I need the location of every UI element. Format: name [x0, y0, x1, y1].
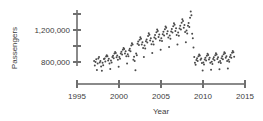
data-point: [118, 56, 120, 58]
data-point: [153, 44, 155, 46]
data-point: [227, 68, 229, 70]
data-point: [207, 54, 209, 56]
data-point: [99, 60, 101, 62]
data-point: [125, 50, 127, 52]
y-tick-label: 800,000: [41, 58, 70, 67]
data-point: [155, 38, 157, 40]
data-point: [220, 62, 222, 64]
data-point: [108, 58, 110, 60]
data-point: [142, 47, 144, 49]
data-point: [183, 27, 185, 29]
data-point: [115, 52, 117, 54]
data-point: [205, 60, 207, 62]
data-point: [169, 34, 171, 36]
x-tick-label: 2005: [152, 92, 170, 101]
y-tick-label: 1,200,000: [34, 26, 70, 35]
data-point: [104, 61, 106, 63]
data-point: [177, 32, 179, 34]
data-point: [149, 40, 151, 42]
data-point: [209, 57, 211, 59]
data-point: [154, 34, 156, 36]
data-point: [176, 34, 178, 36]
data-point: [158, 33, 160, 35]
data-point: [113, 57, 115, 59]
data-point: [95, 58, 97, 60]
data-point: [232, 51, 234, 53]
data-point: [186, 33, 188, 35]
data-point: [141, 44, 143, 46]
data-point: [230, 57, 232, 59]
data-point: [144, 45, 146, 47]
data-point: [224, 52, 226, 54]
data-point: [134, 69, 136, 71]
data-point: [102, 64, 104, 66]
data-point: [107, 60, 109, 62]
data-point: [167, 30, 169, 32]
data-point: [166, 33, 168, 35]
data-point: [202, 69, 204, 71]
data-point: [100, 65, 102, 67]
data-point: [97, 63, 99, 65]
data-point: [104, 57, 106, 59]
x-tick-label: 1995: [68, 92, 86, 101]
data-point: [98, 56, 100, 58]
data-point: [118, 66, 120, 68]
scatter-chart: 1,200,000800,000 19952000200520102015 Pa…: [0, 0, 263, 121]
data-point: [121, 53, 123, 55]
data-point: [192, 37, 194, 39]
data-point: [124, 53, 126, 55]
data-point: [228, 61, 230, 63]
chart-canvas: 1,200,000800,000 19952000200520102015 Pa…: [0, 0, 263, 121]
data-point: [150, 37, 152, 39]
data-point: [94, 65, 96, 67]
data-point: [129, 48, 131, 50]
data-point: [199, 54, 201, 56]
data-point: [178, 35, 180, 37]
data-point: [219, 60, 221, 62]
data-point: [190, 10, 192, 12]
data-point: [96, 69, 98, 71]
x-tick-label: 2010: [194, 92, 212, 101]
data-point: [101, 70, 103, 72]
data-point: [181, 22, 183, 24]
data-point: [130, 50, 132, 52]
data-point: [168, 46, 170, 48]
data-point: [136, 54, 138, 56]
data-point: [218, 68, 220, 70]
data-point: [188, 22, 190, 24]
data-point: [184, 31, 186, 33]
data-point: [176, 44, 178, 46]
data-point: [188, 26, 190, 28]
y-axis: 1,200,000800,000: [34, 10, 81, 67]
data-point: [213, 56, 215, 58]
data-point: [127, 53, 129, 55]
data-point: [143, 56, 145, 58]
data-point: [204, 57, 206, 59]
data-point: [125, 55, 127, 57]
data-point: [217, 56, 219, 58]
data-point: [109, 68, 111, 70]
x-axis-ticks: 19952000200520102015: [68, 80, 254, 101]
data-point: [214, 59, 216, 61]
data-point: [158, 36, 160, 38]
data-point: [225, 55, 227, 57]
data-point: [160, 37, 162, 39]
data-point: [126, 62, 128, 64]
data-point: [180, 29, 182, 31]
data-point: [127, 55, 129, 57]
data-point: [190, 14, 192, 16]
data-point: [175, 27, 177, 29]
data-point: [106, 55, 108, 57]
data-point: [211, 61, 213, 63]
data-point: [174, 30, 176, 32]
data-point: [111, 61, 113, 63]
data-point: [193, 46, 195, 48]
data-point: [185, 41, 187, 43]
data-point: [164, 28, 166, 30]
data-point: [230, 54, 232, 56]
data-point: [112, 55, 114, 57]
data-point: [148, 34, 150, 36]
data-point: [211, 63, 213, 65]
data-points: [93, 10, 235, 71]
data-point: [117, 59, 119, 61]
